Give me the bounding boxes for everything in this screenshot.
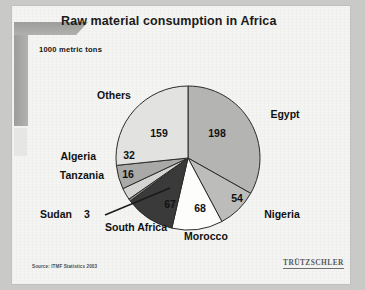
slide-canvas: Raw material consumption in Africa 1000 … (0, 0, 365, 290)
value-label-others: 159 (150, 127, 168, 139)
category-label-egypt: Egypt (270, 108, 300, 120)
value-label-tanzania: 16 (122, 168, 134, 180)
value-label-morocco: 68 (194, 202, 206, 214)
pie-slice-group (116, 86, 260, 230)
category-label-sudan: Sudan (40, 208, 72, 220)
value-label-sudan: 3 (84, 208, 90, 220)
pie-chart: 198 159 54 68 67 16 32 Others Egypt Nige… (0, 0, 365, 290)
category-label-morocco: Morocco (184, 230, 228, 242)
value-label-south-africa: 67 (164, 198, 176, 210)
category-label-nigeria: Nigeria (264, 208, 300, 220)
source-citation: Source: ITMF Statistics 2003 (32, 264, 97, 269)
trutzschler-logo: TRÜTZSCHLER (283, 258, 344, 269)
category-label-tanzania: Tanzania (60, 169, 104, 181)
value-label-egypt: 198 (208, 127, 226, 139)
value-label-nigeria: 54 (231, 192, 243, 204)
category-label-algeria: Algeria (60, 150, 96, 162)
value-label-algeria: 32 (123, 149, 135, 161)
category-label-south-africa: South Africa (105, 221, 167, 233)
category-label-others: Others (97, 89, 131, 101)
